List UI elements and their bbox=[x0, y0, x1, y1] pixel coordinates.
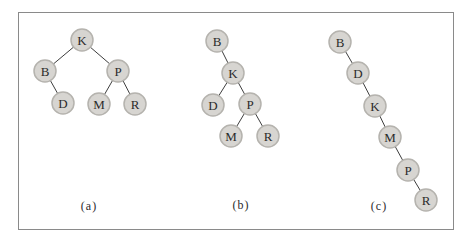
node-letter: B bbox=[213, 34, 222, 49]
tree-node-a-P: P bbox=[107, 60, 129, 82]
tree-node-c-M: M bbox=[379, 126, 401, 148]
node-letter: R bbox=[422, 193, 431, 208]
binary-tree-figure: KBPDMRBKDPMRBDKMPR (a) (b) (c) bbox=[0, 0, 470, 245]
node-letter: R bbox=[131, 97, 140, 112]
tree-node-b-R: R bbox=[257, 125, 279, 147]
node-letter: D bbox=[353, 66, 362, 81]
node-letter: M bbox=[225, 129, 237, 144]
node-letter: P bbox=[114, 64, 121, 79]
node-letter: K bbox=[370, 99, 380, 114]
node-letter: D bbox=[58, 96, 67, 111]
tree-node-c-D: D bbox=[347, 62, 369, 84]
tree-node-a-D: D bbox=[52, 92, 74, 114]
tree-node-c-K: K bbox=[364, 95, 386, 117]
tree-node-a-K: K bbox=[71, 29, 93, 51]
node-letter: P bbox=[246, 97, 253, 112]
panel-label-b: (b) bbox=[221, 198, 261, 213]
tree-node-c-R: R bbox=[415, 189, 437, 211]
tree-node-a-M: M bbox=[88, 93, 110, 115]
node-letter: K bbox=[77, 33, 87, 48]
tree-node-c-P: P bbox=[397, 159, 419, 181]
tree-node-c-B: B bbox=[329, 31, 351, 53]
tree-node-b-D: D bbox=[202, 94, 224, 116]
node-letter: B bbox=[41, 64, 50, 79]
panel-label-a: (a) bbox=[69, 199, 109, 214]
tree-node-b-P: P bbox=[239, 93, 261, 115]
tree-node-b-M: M bbox=[220, 125, 242, 147]
node-letter: B bbox=[336, 35, 345, 50]
tree-node-b-B: B bbox=[206, 30, 228, 52]
node-letter: K bbox=[228, 66, 238, 81]
panel-label-c: (c) bbox=[359, 199, 399, 214]
node-letter: M bbox=[93, 97, 105, 112]
node-letter: M bbox=[384, 130, 396, 145]
node-letter: R bbox=[264, 129, 273, 144]
tree-node-b-K: K bbox=[222, 62, 244, 84]
node-letter: P bbox=[404, 163, 411, 178]
tree-node-a-B: B bbox=[34, 60, 56, 82]
node-letter: D bbox=[208, 98, 217, 113]
tree-node-a-R: R bbox=[124, 93, 146, 115]
